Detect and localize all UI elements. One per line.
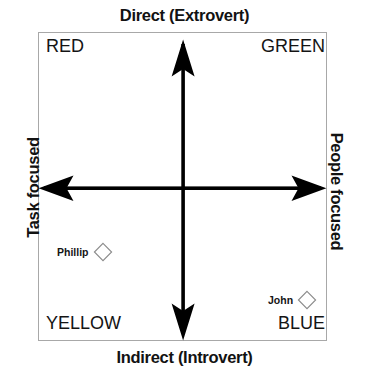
data-point-phillip[interactable]: Phillip (57, 242, 113, 262)
data-point-label: John (268, 294, 293, 306)
quadrant-label-blue: BLUE (278, 313, 325, 334)
data-point-john[interactable]: John (268, 290, 317, 310)
axis-title-top: Direct (Extrovert) (0, 6, 369, 25)
axis-title-bottom: Indirect (Introvert) (0, 348, 369, 367)
quadrant-label-green: GREEN (261, 36, 325, 57)
quadrant-label-yellow: YELLOW (46, 313, 121, 334)
axis-title-left: Task focused (24, 98, 43, 278)
diamond-outline-icon (93, 242, 113, 262)
quadrant-label-red: RED (46, 36, 84, 57)
diamond-outline-icon (297, 290, 317, 310)
personality-quadrant-diagram: Direct (Extrovert) Indirect (Introvert) … (0, 0, 369, 382)
axis-title-right: People focused (327, 102, 346, 282)
data-point-label: Phillip (57, 246, 89, 258)
